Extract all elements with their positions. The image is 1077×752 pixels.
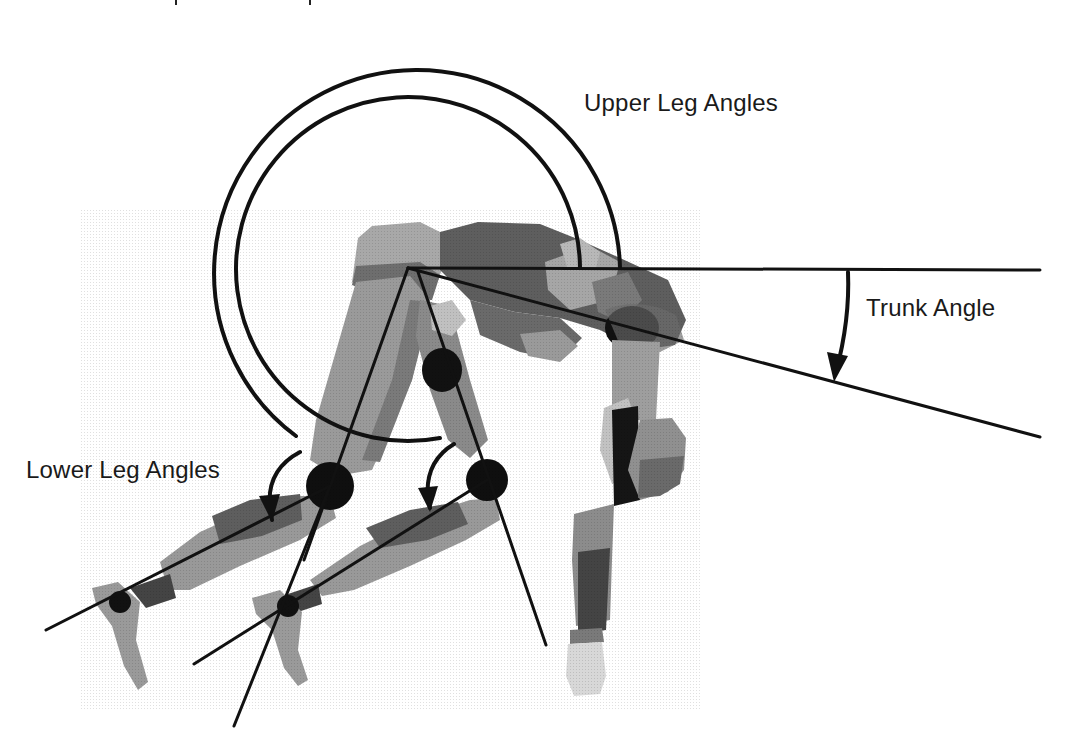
- lower-leg-angles-label: Lower Leg Angles: [26, 456, 220, 484]
- horizontal-reference-line: [408, 268, 1040, 270]
- trunk-angle-label: Trunk Angle: [866, 294, 995, 322]
- trunk-angle-arrowhead: [827, 352, 848, 382]
- upper-leg-angles-label: Upper Leg Angles: [584, 89, 778, 117]
- humanoid-angle-diagram: [0, 0, 1077, 752]
